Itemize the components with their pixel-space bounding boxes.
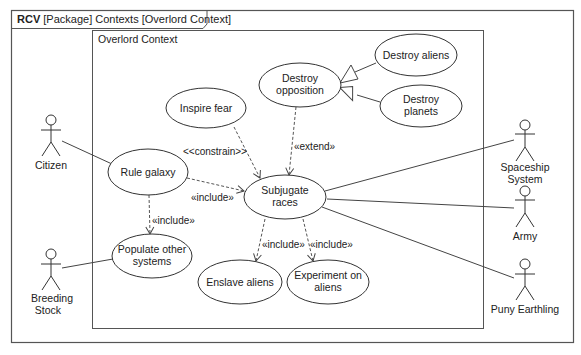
svg-text:Populate other: Populate other	[118, 243, 187, 255]
use-cases: Destroy aliens Destroy opposition Destro…	[108, 34, 462, 304]
svg-text:systems: systems	[133, 255, 172, 267]
svg-text:Experiment on: Experiment on	[294, 269, 362, 281]
stick-figure-icon	[515, 259, 535, 300]
gen-triangle-destroy-aliens	[340, 65, 358, 83]
svg-text:opposition: opposition	[276, 84, 324, 96]
svg-text:races: races	[272, 196, 298, 208]
stick-figure-icon	[515, 120, 535, 161]
assoc-citizen-rule-galaxy[interactable]	[62, 141, 112, 164]
svg-text:Stock: Stock	[35, 304, 62, 316]
stick-figure-icon	[41, 115, 61, 156]
use-case-destroy-planets[interactable]: Destroy planets	[380, 85, 462, 127]
assoc-subjugate-spaceship[interactable]	[325, 140, 514, 191]
context-title: Overlord Context	[98, 33, 177, 45]
svg-text:aliens: aliens	[314, 281, 341, 293]
svg-text:Destroy: Destroy	[282, 72, 319, 84]
svg-text:Breeding: Breeding	[31, 292, 73, 304]
gen-triangle-destroy-planets	[340, 87, 354, 102]
svg-text:Destroy aliens: Destroy aliens	[383, 49, 450, 61]
actor-army[interactable]: Army	[513, 186, 538, 242]
frame-title-bold: RCV	[17, 13, 41, 25]
svg-text:Army: Army	[513, 230, 538, 242]
svg-text:Citizen: Citizen	[35, 159, 67, 171]
label-include-subjugate-enslave: «include»	[262, 239, 305, 250]
use-case-subjugate-races[interactable]: Subjugate races	[244, 175, 326, 219]
stick-figure-icon	[41, 249, 61, 290]
use-case-populate-other-systems[interactable]: Populate other systems	[112, 234, 192, 278]
svg-text:Spaceship: Spaceship	[500, 161, 549, 173]
frame-title-rest: [Package] Contexts [Overlord Context]	[40, 13, 231, 25]
use-case-experiment-on-aliens[interactable]: Experiment on aliens	[287, 260, 369, 304]
svg-text:Inspire fear: Inspire fear	[180, 102, 233, 114]
use-case-inspire-fear[interactable]: Inspire fear	[166, 88, 246, 128]
svg-text:Destroy: Destroy	[403, 93, 440, 105]
label-include-rule-subjugate: «include»	[191, 192, 234, 203]
svg-text:System: System	[507, 173, 542, 185]
actor-breeding-stock[interactable]: Breeding Stock	[31, 249, 73, 316]
use-case-diagram: RCV [Package] Contexts [Overlord Context…	[0, 0, 581, 355]
label-extend: «extend»	[294, 141, 336, 152]
frame-title: RCV [Package] Contexts [Overlord Context…	[17, 13, 231, 25]
gen-line-destroy-planets[interactable]	[357, 95, 380, 102]
svg-text:Subjugate: Subjugate	[261, 184, 308, 196]
svg-text:Enslave aliens: Enslave aliens	[206, 276, 274, 288]
label-constrain: <<constrain>>	[183, 146, 247, 157]
svg-text:planets: planets	[404, 105, 438, 117]
stick-figure-icon	[515, 186, 535, 227]
actor-citizen[interactable]: Citizen	[35, 115, 67, 171]
use-case-rule-galaxy[interactable]: Rule galaxy	[108, 149, 188, 195]
label-include-rule-populate: «include»	[152, 215, 195, 226]
label-include-subjugate-experiment: «include»	[310, 239, 353, 250]
use-case-enslave-aliens[interactable]: Enslave aliens	[198, 260, 282, 304]
actor-puny-earthling[interactable]: Puny Earthling	[491, 259, 559, 315]
assoc-subjugate-army[interactable]	[327, 199, 514, 208]
assoc-breeding-populate[interactable]	[62, 259, 113, 268]
svg-text:Rule galaxy: Rule galaxy	[121, 166, 177, 178]
svg-text:Puny Earthling: Puny Earthling	[491, 303, 559, 315]
use-case-destroy-aliens[interactable]: Destroy aliens	[375, 34, 457, 76]
use-case-destroy-opposition[interactable]: Destroy opposition	[259, 63, 341, 107]
actor-spaceship-system[interactable]: Spaceship System	[500, 120, 549, 185]
generalizations	[340, 63, 380, 102]
gen-line-destroy-aliens[interactable]	[355, 63, 376, 72]
dep-rule-populate[interactable]	[149, 195, 150, 234]
dep-rule-subjugate[interactable]	[187, 178, 244, 191]
